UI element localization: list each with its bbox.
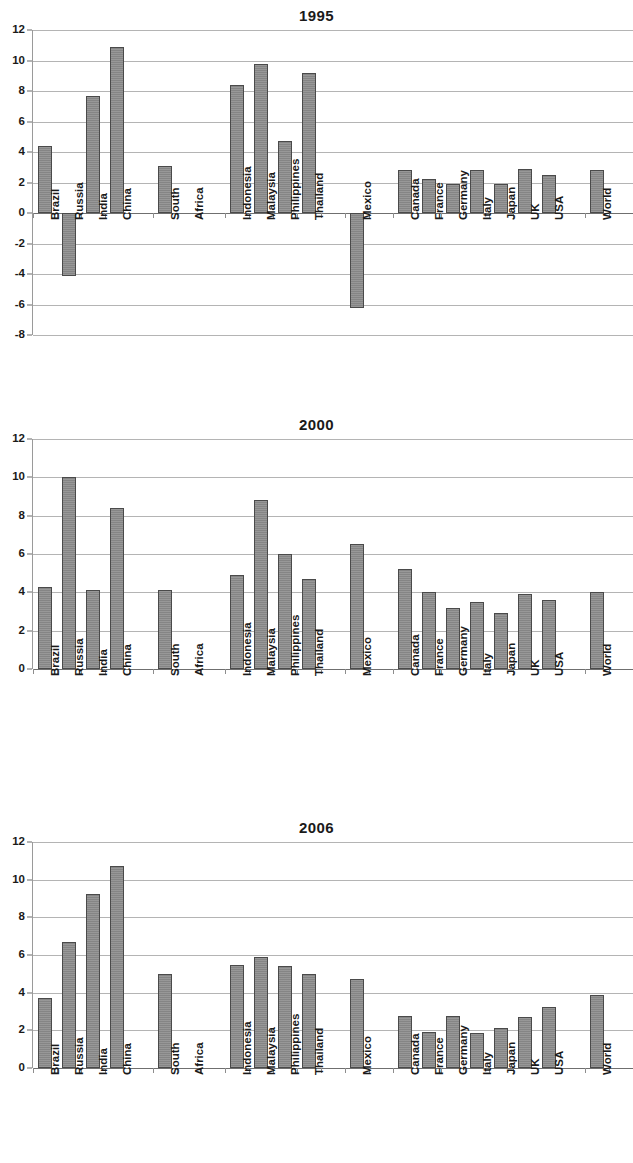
y-tick-label: -8 <box>15 329 25 341</box>
plot-canvas-2006 <box>33 842 633 1068</box>
gridline <box>33 30 633 31</box>
bar <box>86 894 99 1068</box>
x-category-label: India <box>98 1048 110 1075</box>
gridline <box>33 335 633 336</box>
x-tick-mark <box>33 1068 34 1073</box>
bar <box>62 213 75 276</box>
x-category-label: Africa <box>194 187 206 220</box>
y-tick-label: 0 <box>19 663 25 675</box>
y-tick-label: 4 <box>19 587 25 599</box>
x-category-label: Russia <box>74 638 86 676</box>
x-tick-mark <box>345 1068 346 1073</box>
x-tick-mark <box>33 213 34 218</box>
chart-1995: 1995 121086420-2-4-6-8 BrazilRussiaIndia… <box>0 0 633 400</box>
y-tick-label: 4 <box>19 987 25 999</box>
y-tick-label: 10 <box>12 472 25 484</box>
x-category-label: USA <box>554 196 566 220</box>
x-category-label: Malaysia <box>266 1027 278 1075</box>
x-category-label: Mexico <box>362 181 374 220</box>
x-category-label: India <box>98 193 110 220</box>
x-category-label: UK <box>530 659 542 676</box>
x-category-label: Indonesia <box>242 1021 254 1075</box>
x-category-label: South <box>170 643 182 676</box>
x-category-label: UK <box>530 203 542 220</box>
x-category-label: Indonesia <box>242 622 254 676</box>
x-category-label: Thailand <box>314 629 326 676</box>
plot-area-2000: 121086420 BrazilRussiaIndiaChinaSouthAfr… <box>0 439 633 669</box>
y-tick-label: 6 <box>19 548 25 560</box>
x-category-label: Brazil <box>50 189 62 220</box>
x-tick-mark <box>225 1068 226 1073</box>
y-tick-label: 0 <box>19 207 25 219</box>
x-category-label: Canada <box>410 634 422 676</box>
y-tick-label: 8 <box>19 912 25 924</box>
x-category-label: India <box>98 649 110 676</box>
x-category-label: Mexico <box>362 637 374 676</box>
x-category-label: Africa <box>194 1042 206 1075</box>
plot-area-1995: 121086420-2-4-6-8 BrazilRussiaIndiaChina… <box>0 30 633 335</box>
x-category-label: Japan <box>506 643 518 676</box>
x-category-label: Philippines <box>290 615 302 676</box>
x-category-label: Russia <box>74 1037 86 1075</box>
x-tick-mark <box>585 669 586 674</box>
x-tick-mark <box>153 213 154 218</box>
y-tick-label: -4 <box>15 268 25 280</box>
x-tick-mark <box>33 669 34 674</box>
x-tick-mark <box>225 213 226 218</box>
x-tick-mark <box>393 669 394 674</box>
bar <box>518 594 531 669</box>
x-tick-mark <box>153 1068 154 1073</box>
x-category-label: Germany <box>458 626 470 676</box>
x-tick-mark <box>345 669 346 674</box>
gridline <box>33 305 633 306</box>
y-tick-label: 10 <box>12 874 25 886</box>
x-category-label: USA <box>554 652 566 676</box>
x-category-label: Canada <box>410 178 422 220</box>
chart-title-2006: 2006 <box>0 805 633 836</box>
x-category-label: Philippines <box>290 1014 302 1075</box>
plot-canvas-1995 <box>33 30 633 335</box>
x-category-label: Italy <box>482 197 494 220</box>
x-category-label: France <box>434 1037 446 1075</box>
bar <box>350 213 363 308</box>
x-category-label: World <box>602 1043 614 1075</box>
y-axis-2000: 121086420 <box>0 439 32 669</box>
gridline <box>33 439 633 440</box>
y-tick-label: 2 <box>19 625 25 637</box>
x-tick-mark <box>345 213 346 218</box>
x-category-label: Brazil <box>50 1044 62 1075</box>
x-category-label: China <box>122 1043 134 1075</box>
y-tick-label: 12 <box>12 24 25 36</box>
x-category-label: Malaysia <box>266 172 278 220</box>
y-tick-label: 6 <box>19 116 25 128</box>
x-tick-mark <box>585 213 586 218</box>
bar <box>110 866 123 1068</box>
plot-canvas-2000 <box>33 439 633 669</box>
y-tick-label: 8 <box>19 85 25 97</box>
x-category-label: Indonesia <box>242 166 254 220</box>
x-category-label: Russia <box>74 182 86 220</box>
y-tick-label: -2 <box>15 238 25 250</box>
x-category-label: China <box>122 644 134 676</box>
chart-2000: 2000 121086420 BrazilRussiaIndiaChinaSou… <box>0 400 633 805</box>
plot-area-2006: 121086420 BrazilRussiaIndiaChinaSouthAfr… <box>0 842 633 1068</box>
gridline <box>33 244 633 245</box>
gridline <box>33 274 633 275</box>
x-category-label: China <box>122 188 134 220</box>
x-category-label: World <box>602 188 614 220</box>
y-tick-label: 12 <box>12 433 25 445</box>
x-tick-mark <box>393 1068 394 1073</box>
x-category-label: Japan <box>506 187 518 220</box>
y-tick-label: 10 <box>12 55 25 67</box>
y-tick-label: 2 <box>19 177 25 189</box>
gridline <box>33 477 633 478</box>
y-tick-label: -6 <box>15 299 25 311</box>
x-tick-mark <box>225 669 226 674</box>
x-tick-mark <box>393 213 394 218</box>
x-category-label: Italy <box>482 653 494 676</box>
y-tick-label: 6 <box>19 949 25 961</box>
y-axis-1995: 121086420-2-4-6-8 <box>0 30 32 335</box>
x-category-label: Thailand <box>314 173 326 220</box>
x-category-label: Brazil <box>50 645 62 676</box>
x-category-label: Japan <box>506 1042 518 1075</box>
